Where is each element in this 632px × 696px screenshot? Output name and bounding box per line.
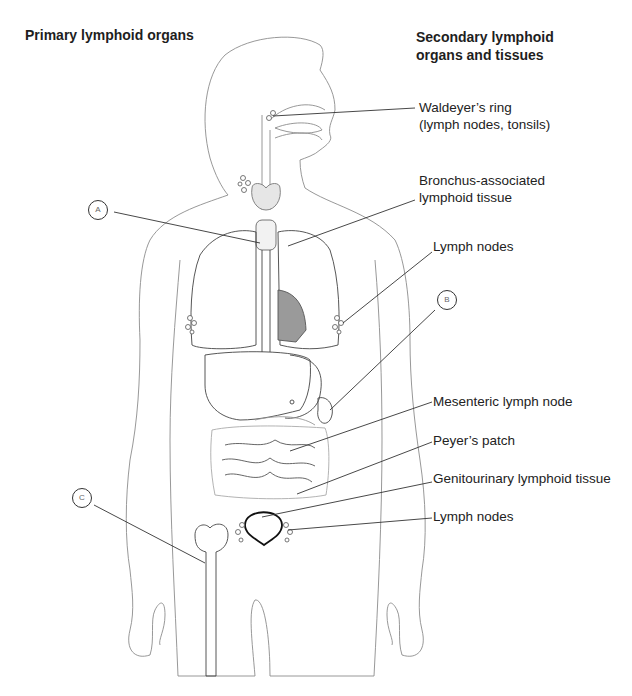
leader-c xyxy=(94,505,205,563)
leader-b xyxy=(330,310,435,410)
left-lung xyxy=(191,231,256,349)
femur xyxy=(195,524,228,676)
right-axillary-lymph-nodes xyxy=(333,316,344,335)
label-bronchus-line1: Bronchus-associated xyxy=(419,172,545,189)
liver xyxy=(205,352,311,420)
heading-primary-lymphoid-organs: Primary lymphoid organs xyxy=(25,26,194,44)
stomach xyxy=(285,355,321,418)
cervical-lymph-nodes xyxy=(238,176,251,193)
label-mesenteric-lymph-node: Mesenteric lymph node xyxy=(433,393,573,410)
heading-secondary-line2: organs and tissues xyxy=(416,46,554,64)
heading-secondary-line1: Secondary lymphoid xyxy=(416,28,554,46)
heart xyxy=(278,290,306,342)
heading-secondary-lymphoid-organs: Secondary lymphoid organs and tissues xyxy=(416,28,554,64)
lymph-node-clusters xyxy=(186,111,344,543)
label-genitourinary: Genitourinary lymphoid tissue xyxy=(433,470,611,487)
label-bronchus-associated: Bronchus-associated lymphoid tissue xyxy=(419,172,545,206)
leader-bronchus xyxy=(288,200,415,246)
leader-lines xyxy=(94,108,435,563)
marker-b: B xyxy=(437,290,457,310)
leader-mesenteric xyxy=(290,402,432,451)
leader-a xyxy=(114,212,260,243)
label-bronchus-line2: lymphoid tissue xyxy=(419,189,545,206)
spleen xyxy=(318,398,333,424)
thyroid xyxy=(252,184,281,211)
leader-genitourinary xyxy=(262,482,432,517)
marker-c: C xyxy=(72,488,92,508)
leader-lymph-nodes-inguinal xyxy=(288,518,432,530)
label-lymph-nodes-inguinal: Lymph nodes xyxy=(433,508,514,525)
label-peyers-patch: Peyer’s patch xyxy=(433,432,515,449)
label-waldeyers-ring: Waldeyer’s ring (lymph nodes, tonsils) xyxy=(419,99,550,133)
label-waldeyers-ring-line2: (lymph nodes, tonsils) xyxy=(419,116,550,133)
large-intestine xyxy=(211,426,329,499)
leader-waldeyer xyxy=(273,108,415,116)
inguinal-lymph-nodes xyxy=(236,523,293,543)
leader-lymph-nodes-axillary xyxy=(343,252,432,323)
bladder xyxy=(245,512,282,545)
small-intestine xyxy=(222,440,315,482)
label-lymph-nodes-axillary: Lymph nodes xyxy=(433,238,514,255)
label-waldeyers-ring-line1: Waldeyer’s ring xyxy=(419,99,550,116)
marker-a: A xyxy=(88,200,108,220)
organs xyxy=(191,184,339,677)
thymus xyxy=(256,220,276,250)
body-outline xyxy=(126,37,425,676)
